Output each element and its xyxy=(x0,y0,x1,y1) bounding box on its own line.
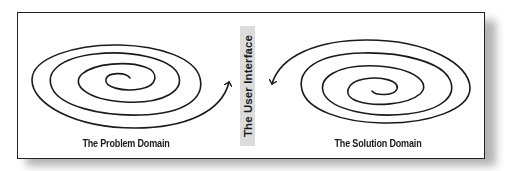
solution-spiral xyxy=(272,40,470,123)
solution-domain-label: The Solution Domain xyxy=(326,137,429,149)
user-interface-divider: The User Interface xyxy=(240,26,255,146)
problem-spiral-path xyxy=(32,45,229,128)
solution-spiral-path xyxy=(272,40,470,123)
problem-domain-label: The Problem Domain xyxy=(74,137,177,149)
user-interface-label: The User Interface xyxy=(242,35,254,137)
problem-spiral xyxy=(32,45,229,128)
